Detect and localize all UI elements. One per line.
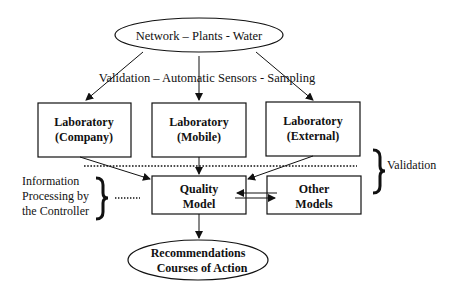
flow-diagram: Network – Plants - Water Validation – Au… (0, 0, 461, 293)
validation-brace-icon (373, 150, 385, 193)
output-node-line2: Courses of Action (157, 261, 248, 275)
other-models-line1: Other (299, 182, 330, 196)
output-node: Recommendations Courses of Action (128, 240, 268, 280)
output-node-line1: Recommendations (151, 246, 246, 260)
lab-mobile-box: Laboratory (Mobile) (152, 103, 246, 157)
lab-company-line2: (Company) (55, 130, 113, 144)
lab-external-box: Laboratory (External) (266, 102, 360, 156)
edge-label: Validation – Automatic Sensors - Samplin… (99, 71, 316, 85)
lab-external-line2: (External) (287, 129, 340, 143)
quality-model-line2: Model (183, 197, 216, 211)
controller-label-line3: the Controller (22, 204, 89, 218)
lab-external-line1: Laboratory (283, 114, 342, 128)
source-node: Network – Plants - Water (115, 18, 283, 52)
lab-mobile-line2: (Mobile) (177, 130, 221, 144)
quality-model-box: Quality Model (152, 176, 246, 214)
other-models-line2: Models (295, 197, 333, 211)
quality-model-line1: Quality (180, 182, 219, 196)
lab-mobile-line1: Laboratory (169, 115, 228, 129)
controller-label-line1: Information (22, 174, 79, 188)
source-node-label: Network – Plants - Water (136, 29, 263, 43)
controller-brace-icon (96, 178, 108, 219)
lab-company-line1: Laboratory (54, 115, 113, 129)
arrow-company-to-quality (80, 157, 150, 179)
lab-company-box: Laboratory (Company) (38, 103, 131, 157)
controller-label-line2: Processing by (22, 189, 89, 203)
validation-label: Validation (387, 158, 436, 172)
other-models-box: Other Models (267, 176, 361, 214)
